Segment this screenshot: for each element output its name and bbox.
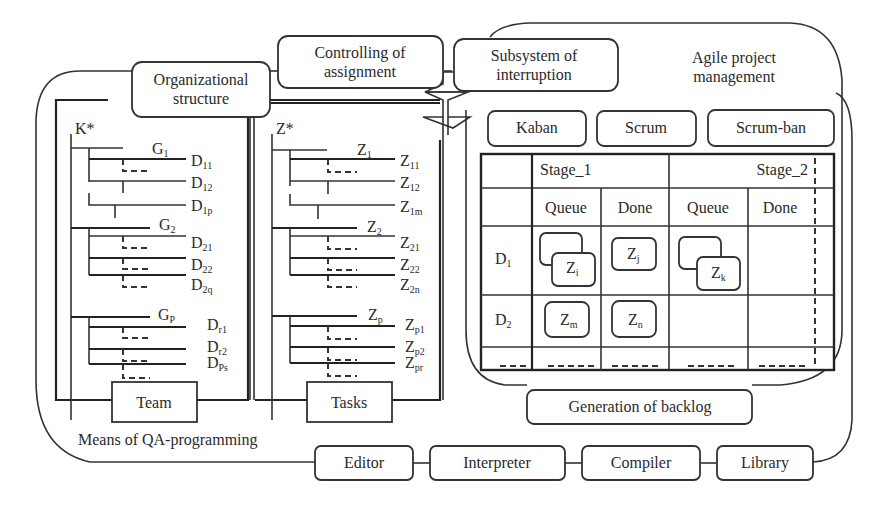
method-scrum-ban-button[interactable]: Scrum-ban [708,110,834,146]
compiler-button[interactable]: Compiler [582,446,700,480]
org-structure-line2: structure [173,90,229,107]
team-label: Team [136,394,172,411]
member-d1p: D1p [191,197,213,216]
interruption-line2: interruption [496,66,572,84]
task-z12: Z12 [400,174,420,193]
card-zm[interactable]: Zm [545,302,589,337]
team-tree [71,134,186,420]
task-z1m: Z1m [400,198,423,217]
team-box[interactable]: Team [112,382,197,422]
controlling-of-assignment-box[interactable]: Controlling of assignment [278,36,443,88]
stage-1-header: Stage_1 [540,161,592,179]
stage2-queue-header: Queue [687,199,729,216]
kaban-label: Kaban [516,119,558,136]
tasks-label: Tasks [331,394,367,411]
library-label: Library [741,454,789,472]
organizational-structure-box[interactable]: Organizational structure [132,62,270,117]
generation-of-backlog-button[interactable]: Generation of backlog [527,390,752,424]
arrow-body [423,92,470,128]
subsystem-of-interruption-box[interactable]: Subsystem of interruption [454,39,618,91]
interpreter-label: Interpreter [463,454,531,472]
task-group-z2: Z2 [367,218,382,237]
editor-button[interactable]: Editor [315,446,413,480]
member-d2q: D2q [191,276,213,295]
agile-title-line1: Agile project [692,49,777,67]
task-z2n: Z2n [400,276,420,295]
task-tree [272,134,395,420]
method-scrum-button[interactable]: Scrum [597,111,696,146]
stage-2-header: Stage_2 [756,161,808,179]
member-d11: D11 [191,152,212,171]
method-kaban-button[interactable]: Kaban [488,111,586,146]
group-g1: G1 [152,140,169,159]
team-frame [56,100,112,400]
tasks-box[interactable]: Tasks [307,382,392,422]
task-root-label: Z* [276,120,294,137]
task-group-z1: Z1 [357,141,372,160]
kanban-board [481,154,834,370]
library-button[interactable]: Library [717,446,813,480]
scrum-label: Scrum [625,119,667,136]
card-zn[interactable]: Zn [612,301,656,337]
task-zp1: Zp1 [405,316,425,335]
group-gp: GP [158,306,176,325]
controlling-line2: assignment [324,63,397,81]
member-d22: D22 [191,256,213,275]
member-d21: D21 [191,234,213,253]
interruption-line1: Subsystem of [491,47,578,65]
agile-title-line2: management [693,68,775,86]
qa-programming-diagram: Organizational structure Controlling of … [0,0,896,510]
backlog-label: Generation of backlog [568,398,711,416]
stage1-done-header: Done [618,199,653,216]
stage1-queue-header: Queue [545,199,587,216]
team-root-label: K* [75,120,95,137]
task-z22: Z22 [400,256,420,275]
task-z21: Z21 [400,234,420,253]
member-d12: D12 [191,174,213,193]
qa-means-label: Means of QA-programming [78,431,258,449]
task-z11: Z11 [400,152,419,171]
scrum-ban-label: Scrum-ban [736,119,806,136]
compiler-label: Compiler [611,454,672,472]
editor-label: Editor [344,454,385,471]
stage2-done-header: Done [763,199,798,216]
group-g2: G2 [159,216,176,235]
controlling-line1: Controlling of [314,44,406,62]
org-structure-line1: Organizational [154,71,249,89]
member-dr1: Dr1 [207,316,227,335]
task-group-zp: Zp [368,306,383,325]
interpreter-button[interactable]: Interpreter [430,446,565,480]
card-zj[interactable]: Zj [612,238,656,270]
